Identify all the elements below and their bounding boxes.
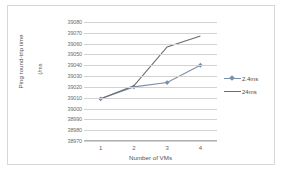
legend-item[interactable]: 24ms <box>224 85 276 98</box>
y-axis-tick-label: 39020 <box>48 84 82 90</box>
y-axis-tick-labels: 3908039070390603905039040390303902039010… <box>42 22 82 141</box>
chart-legend: 2.4ms 24ms <box>224 72 276 98</box>
plot-area <box>84 22 217 141</box>
x-axis-tick-label: 1 <box>99 145 102 151</box>
x-axis-tick-label: 4 <box>199 145 202 151</box>
y-axis-tick-label: 39040 <box>48 62 82 68</box>
legend-swatch-marker-icon <box>224 74 241 83</box>
y-axis-tick-label: 38990 <box>48 116 82 122</box>
gridlines <box>84 22 217 141</box>
y-axis-tick-label: 39000 <box>48 106 82 112</box>
x-axis-tick-label: 2 <box>132 145 135 151</box>
y-axis-tick-label: 39060 <box>48 41 82 47</box>
y-axis-tick-label: 39050 <box>48 51 82 57</box>
y-axis-tick-label: 39010 <box>48 95 82 101</box>
legend-swatch-line-icon <box>224 87 241 96</box>
y-axis-title: Ping round-trip time <box>17 22 24 102</box>
gridline <box>84 98 217 99</box>
gridline <box>84 109 217 110</box>
gridline <box>84 44 217 45</box>
gridline <box>84 33 217 34</box>
legend-item-label: 24ms <box>242 89 257 95</box>
gridline <box>84 65 217 66</box>
chart-figure: Ping round-trip time (/ms 39080390703906… <box>7 5 275 165</box>
gridline <box>84 22 217 23</box>
x-axis-title: Number of VMs <box>84 154 217 161</box>
gridline <box>84 54 217 55</box>
x-axis-tick-label: 3 <box>165 145 168 151</box>
legend-item-label: 2.4ms <box>242 76 258 82</box>
x-axis-tick-labels: 1234 <box>84 141 217 155</box>
y-axis-tick-label: 38970 <box>48 138 82 144</box>
y-axis-tick-label: 38980 <box>48 127 82 133</box>
y-axis-tick-label: 39080 <box>48 19 82 25</box>
y-axis-tick-label: 39030 <box>48 73 82 79</box>
y-axis-tick-label: 39070 <box>48 30 82 36</box>
legend-item[interactable]: 2.4ms <box>224 72 276 85</box>
gridline <box>84 130 217 131</box>
gridline <box>84 76 217 77</box>
gridline <box>84 87 217 88</box>
gridline <box>84 119 217 120</box>
